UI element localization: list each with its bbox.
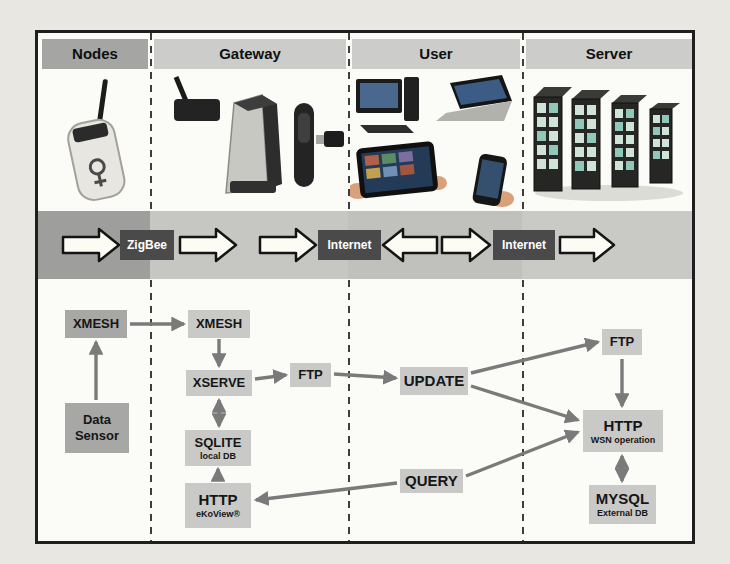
architecture-diagram: Nodes Gateway User Server [35,30,695,544]
box-sublabel: External DB [597,508,648,518]
box-label: HTTP [198,491,237,509]
box-sublabel: eKoView® [196,509,240,519]
flow-box-update: UPDATE [400,367,468,395]
flow-box-http-gateway: HTTPeKoView® [185,483,251,528]
flow-box-query: QUERY [400,469,463,493]
flow-box-data-sensor: Data Sensor [65,403,129,453]
flow-connections [38,33,692,541]
box-label: MYSQL [596,490,649,508]
box-label: UPDATE [404,372,465,390]
box-label: HTTP [603,417,642,435]
flow-box-http-server: HTTPWSN operation [583,410,663,452]
flow-box-xserve: XSERVE [186,370,252,396]
box-sublabel: local DB [200,451,236,461]
flow-box-ftp-server: FTP [602,329,642,355]
box-label: SQLITE [195,435,242,451]
box-sublabel: WSN operation [591,435,656,445]
box-label: Data Sensor [65,412,129,443]
flow-box-ftp-gateway: FTP [290,363,331,387]
box-label: QUERY [405,472,458,490]
box-label: XSERVE [193,375,246,391]
flow-box-xmesh-nodes: XMESH [65,310,127,338]
flow-box-sqlite: SQLITElocal DB [185,430,251,466]
flow-box-mysql: MYSQLExternal DB [589,485,656,524]
box-label: XMESH [196,316,242,332]
flow-box-xmesh-gateway: XMESH [188,310,250,338]
box-label: FTP [298,367,323,383]
box-label: XMESH [73,316,119,332]
box-label: FTP [610,334,635,350]
